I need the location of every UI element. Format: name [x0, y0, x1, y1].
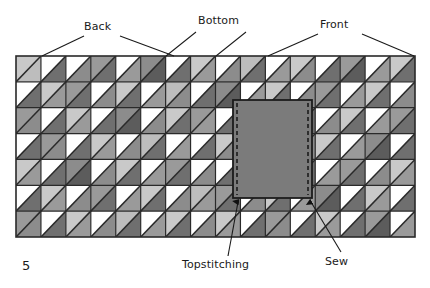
page-number: 5 — [22, 258, 30, 273]
pocket-rectangle — [233, 100, 312, 198]
label-front: Front — [320, 18, 348, 31]
figure-canvas: Back Bottom Front Topstitching Sew 5 — [0, 0, 430, 288]
label-topstitching: Topstitching — [182, 258, 249, 271]
label-sew: Sew — [325, 255, 348, 268]
quilt-panel-diagram — [0, 0, 430, 288]
pocket-piece — [233, 100, 312, 198]
label-back: Back — [84, 20, 111, 33]
label-bottom: Bottom — [198, 14, 239, 27]
